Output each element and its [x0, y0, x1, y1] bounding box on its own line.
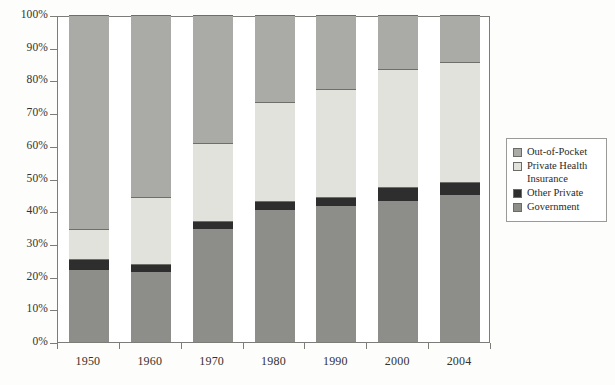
bar-segment — [131, 264, 171, 272]
x-axis: 1950196019701980199020002004 — [57, 343, 490, 383]
bar-segment — [440, 15, 480, 62]
y-axis-tick-label: 10% — [27, 302, 48, 314]
bar-segment — [193, 221, 233, 229]
x-axis-tick-label: 1980 — [244, 354, 304, 369]
x-axis-tick-mark — [428, 343, 429, 349]
y-axis-tick-mark — [50, 49, 57, 50]
bar-column — [316, 17, 356, 342]
bar-column — [378, 17, 418, 342]
y-axis-tick-mark — [50, 180, 57, 181]
legend-item: Government — [513, 200, 601, 213]
bar-segment — [316, 89, 356, 197]
bar-segment — [316, 197, 356, 207]
y-axis-tick-label: 30% — [27, 237, 48, 249]
y-axis-tick-mark — [50, 245, 57, 246]
bar-segment — [69, 15, 109, 229]
bar-segment — [378, 15, 418, 69]
bar-segment — [440, 195, 480, 342]
bar-segment — [131, 15, 171, 196]
x-axis-tick-label: 1950 — [58, 354, 118, 369]
y-axis-tick-mark — [50, 278, 57, 279]
y-axis-tick-mark — [50, 147, 57, 148]
legend-item-label: Private Health Insurance — [527, 159, 587, 185]
bar-segment — [316, 206, 356, 342]
legend-swatch-icon — [513, 203, 522, 212]
bar-segment — [131, 272, 171, 342]
legend-item-label: Government — [527, 200, 580, 213]
y-axis: 0%10%20%30%40%50%60%70%80%90%100% — [0, 0, 57, 345]
legend-swatch-icon — [513, 162, 522, 171]
x-axis-tick-mark — [181, 343, 182, 349]
bar-column — [193, 17, 233, 342]
legend-item: Out-of-Pocket — [513, 145, 601, 158]
y-axis-tick-mark — [50, 310, 57, 311]
y-axis-tick-label: 0% — [32, 335, 48, 347]
stacked-bar-chart: 0%10%20%30%40%50%60%70%80%90%100% 195019… — [0, 0, 615, 385]
x-axis-tick-label: 2004 — [429, 354, 489, 369]
y-axis-tick-label: 40% — [27, 204, 48, 216]
y-axis-tick-mark — [50, 16, 57, 17]
x-axis-tick-label: 1970 — [182, 354, 242, 369]
x-axis-tick-label: 1960 — [120, 354, 180, 369]
plot-area — [57, 16, 490, 343]
y-axis-tick-label: 20% — [27, 270, 48, 282]
y-axis-tick-mark — [50, 81, 57, 82]
x-axis-tick-mark — [366, 343, 367, 349]
y-axis-tick-mark — [50, 212, 57, 213]
y-axis-tick-label: 70% — [27, 106, 48, 118]
bar-segment — [316, 15, 356, 89]
bar-segment — [69, 259, 109, 270]
x-axis-tick-mark — [490, 343, 491, 349]
bar-segment — [255, 15, 295, 102]
bar-segment — [255, 102, 295, 202]
bar-segment — [193, 143, 233, 221]
legend-item-label: Other Private — [527, 186, 583, 199]
bar-segment — [378, 201, 418, 342]
y-axis-tick-label: 100% — [21, 8, 48, 20]
legend-swatch-icon — [513, 189, 522, 198]
x-axis-tick-mark — [243, 343, 244, 349]
bar-segment — [255, 210, 295, 342]
bar-column — [69, 17, 109, 342]
legend-item-label: Out-of-Pocket — [527, 145, 587, 158]
bar-segment — [131, 197, 171, 264]
chart-legend: Out-of-PocketPrivate Health InsuranceOth… — [506, 138, 607, 222]
legend-item: Private Health Insurance — [513, 159, 601, 185]
y-axis-tick-label: 90% — [27, 41, 48, 53]
y-axis-tick-mark — [50, 114, 57, 115]
y-axis-tick-mark — [50, 343, 57, 344]
bar-segment — [193, 15, 233, 143]
bar-column — [255, 17, 295, 342]
x-axis-tick-mark — [57, 343, 58, 349]
bar-segment — [378, 187, 418, 202]
x-axis-tick-mark — [119, 343, 120, 349]
bar-segment — [378, 69, 418, 187]
bar-segment — [440, 62, 480, 181]
x-axis-tick-mark — [304, 343, 305, 349]
x-axis-tick-label: 1990 — [305, 354, 365, 369]
bar-segment — [193, 229, 233, 342]
bar-segment — [440, 182, 480, 195]
bar-column — [440, 17, 480, 342]
bar-column — [131, 17, 171, 342]
y-axis-tick-label: 80% — [27, 73, 48, 85]
legend-item: Other Private — [513, 186, 601, 199]
y-axis-tick-label: 60% — [27, 139, 48, 151]
y-axis-tick-label: 50% — [27, 172, 48, 184]
bar-segment — [69, 270, 109, 342]
x-axis-tick-label: 2000 — [367, 354, 427, 369]
bar-segment — [69, 229, 109, 258]
bar-segment — [255, 201, 295, 209]
legend-swatch-icon — [513, 148, 522, 157]
